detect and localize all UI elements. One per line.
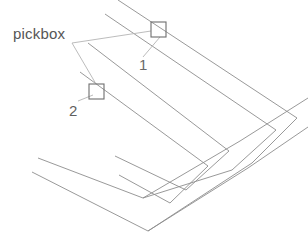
leader-line-marker-two — [78, 95, 93, 101]
marker-label-2: 2 — [69, 103, 77, 118]
pickbox-text-label: pickbox — [13, 26, 65, 41]
leader-line-marker-one — [143, 37, 160, 57]
leader-line-to-pickbox-2 — [72, 43, 96, 84]
pickbox-1[interactable] — [151, 22, 166, 37]
diagram-canvas: pickbox 1 2 — [0, 0, 308, 241]
polyline-outer-rail-upper — [118, 0, 297, 231]
polyline-inner-rail-upper — [88, 43, 229, 190]
marker-label-1: 1 — [139, 57, 147, 72]
polyline-lower-band-lower — [32, 127, 308, 231]
pickbox-2[interactable] — [89, 84, 104, 99]
